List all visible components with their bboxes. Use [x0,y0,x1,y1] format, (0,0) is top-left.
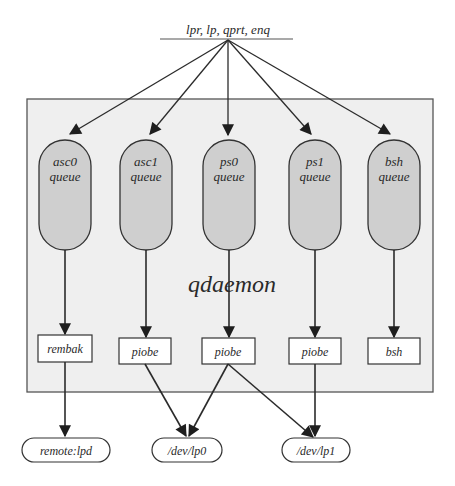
queue-ps1: ps1 queue [289,140,341,250]
backend-piobe-1: piobe [119,338,171,364]
svg-text:ps1: ps1 [305,154,324,169]
svg-text:queue: queue [49,169,80,184]
backend-bsh: bsh [368,338,420,364]
svg-text:queue: queue [130,169,161,184]
device-dev-lp0: /dev/lp0 [152,438,222,462]
svg-text:queue: queue [299,169,330,184]
svg-text:ps0: ps0 [219,154,239,169]
command-label: lpr, lp, qprt, enq [186,22,270,37]
svg-text:piobe: piobe [131,345,159,359]
command-node: lpr, lp, qprt, enq [160,22,293,39]
svg-text:remote:lpd: remote:lpd [40,444,93,458]
svg-text:queue: queue [213,169,244,184]
device-remote-lpd: remote:lpd [22,438,110,462]
svg-text:bsh: bsh [385,154,403,169]
svg-text:queue: queue [378,169,409,184]
device-dev-lp1: /dev/lp1 [282,438,350,462]
svg-text:piobe: piobe [214,345,242,359]
queue-asc1: asc1 queue [120,140,172,250]
svg-text:rembak: rembak [47,342,83,356]
queue-ps0: ps0 queue [203,140,255,250]
queue-asc0: asc0 queue [39,140,91,250]
svg-text:bsh: bsh [386,345,403,359]
svg-text:/dev/lp0: /dev/lp0 [167,444,207,458]
backend-rembak: rembak [38,335,92,362]
qdaemon-label: qdaemon [188,271,276,297]
svg-text:asc1: asc1 [134,154,158,169]
svg-text:piobe: piobe [301,345,329,359]
svg-text:asc0: asc0 [53,154,77,169]
backend-piobe-3: piobe [289,338,341,364]
svg-text:/dev/lp1: /dev/lp1 [296,444,336,458]
queue-bsh: bsh queue [368,140,420,250]
backend-piobe-2: piobe [202,338,255,364]
qdaemon-diagram: lpr, lp, qprt, enq asc0 queue asc1 queue… [0,0,455,486]
